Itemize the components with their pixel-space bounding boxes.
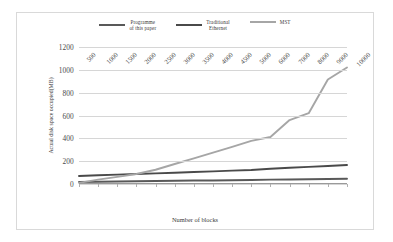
gridline xyxy=(79,116,347,117)
series-line-programme-of-this-paper xyxy=(79,179,347,182)
x-axis-tick-mark xyxy=(328,184,329,187)
x-axis-title: Number of blocks xyxy=(17,216,373,223)
x-axis-tick-mark xyxy=(270,184,271,187)
x-axis-tick-mark xyxy=(251,184,252,187)
x-axis-tick-mark xyxy=(213,184,214,187)
x-axis-tick-label: 10000 xyxy=(355,51,372,68)
x-axis-tick-mark xyxy=(156,184,157,187)
chart-legend: Programme of this paper Traditional Ethe… xyxy=(17,19,373,31)
gridline xyxy=(79,47,347,48)
x-axis-tick-mark xyxy=(136,184,137,187)
legend-label-programme-of-this-paper: Programme of this paper xyxy=(129,19,156,31)
legend-item-traditional-ethernet: Traditional Ethernet xyxy=(176,19,230,31)
gridline xyxy=(79,70,347,71)
y-axis-tick-label: 400 xyxy=(63,134,74,143)
x-axis-tick-mark xyxy=(194,184,195,187)
series-line-traditional-ethernet xyxy=(79,165,347,176)
legend-label-traditional-ethernet: Traditional Ethernet xyxy=(206,19,230,31)
legend-item-mst: MST xyxy=(250,19,291,25)
x-axis-tick-mark xyxy=(290,184,291,187)
x-axis-tick-mark xyxy=(175,184,176,187)
x-axis-tick-mark xyxy=(98,184,99,187)
x-axis-tick-mark xyxy=(232,184,233,187)
legend-swatch-programme-of-this-paper xyxy=(99,24,125,26)
legend-swatch-traditional-ethernet xyxy=(176,24,202,26)
y-axis-tick-label: 200 xyxy=(63,157,74,166)
y-axis-tick-label: 1000 xyxy=(59,65,74,74)
y-axis-tick-label: 600 xyxy=(63,111,74,120)
legend-label-mst: MST xyxy=(280,19,291,25)
y-axis-tick-label: 1200 xyxy=(59,43,74,52)
gridline xyxy=(79,161,347,162)
y-axis-tick-label: 0 xyxy=(70,180,74,189)
gridline xyxy=(79,93,347,94)
x-axis-tick-mark xyxy=(347,184,348,187)
x-axis-tick-mark xyxy=(309,184,310,187)
y-axis-title: Actual disk space occupied(MB) xyxy=(45,47,57,184)
legend-item-programme-of-this-paper: Programme of this paper xyxy=(99,19,156,31)
legend-swatch-mst xyxy=(250,21,276,23)
x-axis-tick-mark xyxy=(117,184,118,187)
gridline xyxy=(79,138,347,139)
plot-area: 020040060080010001200 500100015002000250… xyxy=(79,47,347,184)
chart-figure: Programme of this paper Traditional Ethe… xyxy=(16,12,374,230)
y-axis-tick-label: 800 xyxy=(63,88,74,97)
series-line-mst xyxy=(79,68,347,183)
x-axis-tick-mark xyxy=(79,184,80,187)
